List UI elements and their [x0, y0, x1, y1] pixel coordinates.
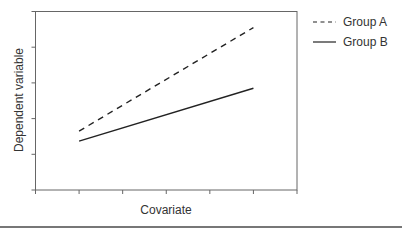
x-axis-ticks	[36, 190, 298, 194]
chart: Covariate Dependent variable Group A Gro…	[0, 0, 402, 230]
y-axis-ticks	[32, 12, 36, 191]
plot-frame	[36, 12, 298, 191]
series-line-group-a	[79, 28, 253, 132]
plot-area	[32, 12, 298, 195]
x-axis-label: Covariate	[140, 203, 192, 217]
series-lines	[79, 28, 253, 142]
y-axis-label: Dependent variable	[12, 48, 26, 152]
legend: Group A Group B	[313, 15, 388, 49]
legend-group-a: Group A	[343, 15, 387, 29]
series-line-group-b	[79, 88, 253, 141]
legend-group-b: Group B	[343, 35, 388, 49]
